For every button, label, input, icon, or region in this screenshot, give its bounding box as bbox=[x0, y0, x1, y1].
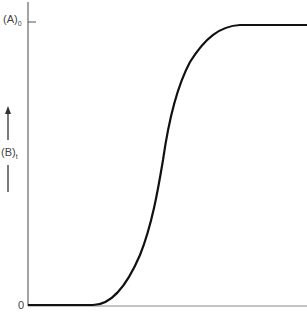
data-curve bbox=[28, 25, 307, 305]
y-tick-label-zero: 0 bbox=[18, 299, 24, 311]
arrow-up-icon bbox=[5, 106, 11, 114]
y-axis-label: (B)t bbox=[1, 146, 18, 158]
y-tick-label-a0: (A)0 bbox=[3, 13, 22, 25]
chart-canvas bbox=[0, 0, 307, 319]
